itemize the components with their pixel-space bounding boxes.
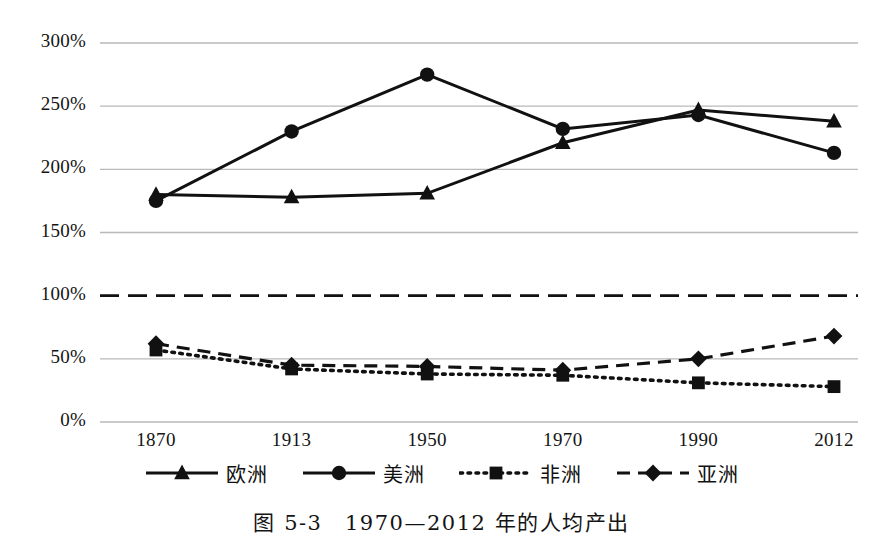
figure-caption: 图 5-3 1970—2012 年的人均产出 [0,506,883,536]
chart-plot-area: 0%50%100%150%200%250%300% 18701913195019… [0,0,883,450]
data-point-marker [420,67,434,81]
x-tick-label: 1970 [513,429,613,451]
x-tick-label: 1990 [648,429,748,451]
legend-label: 美洲 [383,459,425,488]
data-point-marker [826,328,843,345]
y-tick-label: 150% [41,220,86,242]
data-point-marker [149,194,163,208]
legend-item-3[interactable]: 亚洲 [616,459,739,488]
y-tick-label: 300% [41,30,86,52]
legend-item-0[interactable]: 欧洲 [145,459,268,488]
chart-legend: 欧洲美洲非洲亚洲 [0,452,883,494]
legend-swatch-square-marker [459,462,533,484]
series-line-1 [156,75,834,201]
data-point-marker [828,380,841,393]
gridlines-group [100,43,858,422]
legend-label: 非洲 [540,459,582,488]
legend-label: 亚洲 [697,459,739,488]
legend-item-1[interactable]: 美洲 [302,459,425,488]
x-tick-label: 1870 [106,429,206,451]
chart-svg [0,0,883,450]
series-markers-group [148,67,843,393]
legend-swatch-circle-marker [302,462,376,484]
y-tick-label: 250% [41,93,86,115]
data-point-marker [284,124,298,138]
x-tick-label: 2012 [784,429,883,451]
legend-label: 欧洲 [226,459,268,488]
y-tick-label: 100% [41,283,86,305]
data-point-marker [827,146,841,160]
y-tick-label: 0% [60,409,86,431]
figure-per-capita-output: 0%50%100%150%200%250%300% 18701913195019… [0,0,883,555]
y-tick-label: 200% [41,156,86,178]
x-tick-label: 1950 [377,429,477,451]
data-point-marker [556,122,570,136]
data-point-marker [692,376,705,389]
series-lines-group [156,75,834,387]
data-point-marker [691,108,705,122]
data-point-marker [690,350,707,367]
y-tick-label: 50% [51,346,86,368]
legend-item-2[interactable]: 非洲 [459,459,582,488]
legend-swatch-triangle-marker [145,462,219,484]
legend-swatch-diamond-marker [616,462,690,484]
x-tick-label: 1913 [242,429,342,451]
